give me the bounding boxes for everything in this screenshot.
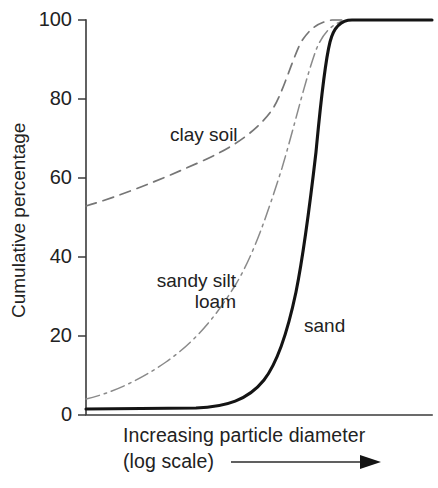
series-label-clay-soil: clay soil [170,124,238,146]
x-axis-direction-arrow [231,455,381,469]
y-tick-label-80: 80 [20,87,72,110]
y-tick-label-100: 100 [20,8,72,31]
y-axis-title: Cumulative percentage [8,123,30,318]
series-label-sand: sand [304,315,345,337]
series-label-sandy-silt-loam-line1: sandy silt [133,270,236,291]
x-axis-caption-line1: Increasing particle diameter [123,424,365,447]
y-tick-label-0: 0 [20,403,72,426]
y-tick-marks [78,20,86,415]
series-curve-sandy-silt-loam [86,20,432,399]
chart-figure: 100 80 60 40 20 0 Cumulative percentage … [0,0,438,488]
x-axis-caption-line2: (log scale) [123,450,214,473]
series-label-sandy-silt-loam: sandy silt loam [133,270,236,313]
y-tick-label-20: 20 [20,324,72,347]
axis-lines [86,20,432,415]
series-curve-sand [86,20,432,409]
series-label-sandy-silt-loam-line2: loam [133,291,236,312]
series-curve-clay-soil [86,20,432,206]
